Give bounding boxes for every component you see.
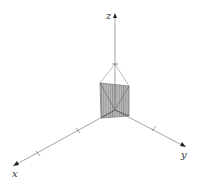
3d-diagram: z x y — [0, 0, 200, 184]
solid-front-face — [100, 83, 129, 118]
x-axis-label: x — [12, 168, 18, 179]
apex-edge-right — [115, 64, 129, 86]
shaded-solid — [100, 64, 129, 118]
y-arrow-icon — [180, 142, 186, 147]
z-arrow-icon — [113, 13, 117, 18]
z-axis-label: z — [105, 10, 112, 21]
y-axis: y — [115, 110, 187, 160]
x-tick — [76, 128, 80, 133]
x-axis: x — [12, 110, 115, 179]
x-arrow-icon — [13, 161, 19, 166]
y-axis-label: y — [180, 149, 187, 160]
apex-edge-left — [100, 64, 115, 83]
